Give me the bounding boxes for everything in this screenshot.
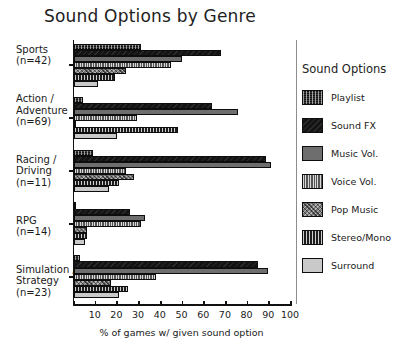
legend-label: Stereo/Mono (331, 232, 391, 243)
bar-group (74, 255, 290, 298)
y-axis-label-line: (n=23) (16, 287, 70, 298)
x-axis-tick-label: 50 (175, 309, 187, 320)
x-axis-title: % of games w/ given sound option (73, 327, 290, 338)
legend-title: Sound Options (302, 62, 406, 76)
x-axis: 102030405060708090100 (73, 304, 290, 306)
x-axis-tick-label: 90 (262, 309, 274, 320)
x-axis-tick-label: 30 (132, 309, 144, 320)
legend-item[interactable]: Sound FX (302, 111, 406, 139)
bar[interactable] (74, 81, 98, 87)
y-axis-label-line: Adventure (16, 105, 70, 116)
legend-item[interactable]: Surround (302, 251, 406, 279)
x-axis-tick-label: 60 (197, 309, 209, 320)
x-axis-tick (290, 301, 292, 306)
bar-row (74, 239, 290, 245)
plot-area (73, 40, 290, 304)
y-axis-label-line: (n=42) (16, 55, 70, 66)
legend-swatch (302, 202, 323, 217)
bar-group (74, 97, 290, 140)
legend-label: Music Vol. (331, 148, 378, 159)
y-axis-label-line: Racing / (16, 154, 70, 165)
legend-swatch (302, 90, 323, 105)
y-axis-label-line: (n=14) (16, 226, 70, 237)
legend-label: Voice Vol. (331, 176, 377, 187)
y-axis-label: Sports(n=42) (0, 44, 70, 67)
x-axis-tick (182, 301, 184, 306)
y-axis-label: Action /Adventure(n=69) (0, 93, 70, 127)
x-axis-tick (160, 301, 162, 306)
y-axis-label-line: Action / (16, 93, 70, 104)
bar-row (74, 292, 290, 298)
legend-swatch (302, 230, 323, 245)
x-axis-tick-label: 80 (241, 309, 253, 320)
y-axis-tick (69, 170, 74, 172)
bar-group (74, 202, 290, 245)
legend-divider (296, 40, 297, 304)
x-axis-tick-label: 10 (89, 309, 101, 320)
x-axis-tick (268, 301, 270, 306)
y-axis-label: RPG(n=14) (0, 215, 70, 238)
y-axis-label-line: (n=69) (16, 116, 70, 127)
bar[interactable] (74, 239, 85, 245)
legend-label: Playlist (331, 92, 365, 103)
legend-item[interactable]: Music Vol. (302, 139, 406, 167)
x-axis-tick-label: 40 (154, 309, 166, 320)
x-axis-tick-label: 70 (219, 309, 231, 320)
y-axis-label-line: RPG (16, 215, 70, 226)
x-axis-tick (95, 301, 97, 306)
x-axis-tick (225, 301, 227, 306)
bar[interactable] (74, 292, 119, 298)
y-axis-label-line: Sports (16, 44, 70, 55)
bar-row (74, 81, 290, 87)
y-axis-label-line: (n=11) (16, 177, 70, 188)
legend-item[interactable]: Playlist (302, 83, 406, 111)
legend-label: Surround (331, 260, 374, 271)
y-axis-tick (69, 117, 74, 119)
x-axis-tick (73, 301, 75, 306)
x-axis-tick (116, 301, 118, 306)
y-axis-label-line: Strategy (16, 275, 70, 286)
legend-swatch (302, 258, 323, 273)
y-axis-tick (69, 276, 74, 278)
x-axis-tick (203, 301, 205, 306)
y-axis-label: Racing /Driving(n=11) (0, 154, 70, 188)
legend-item[interactable]: Pop Music (302, 195, 406, 223)
x-axis-tick-label: 100 (281, 309, 299, 320)
bar-groups (74, 40, 290, 304)
y-axis-label: Simulation /Strategy(n=23) (0, 264, 70, 298)
y-axis-label-line: Driving (16, 165, 70, 176)
legend-item[interactable]: Voice Vol. (302, 167, 406, 195)
legend: Sound Options PlaylistSound FXMusic Vol.… (302, 62, 406, 279)
legend-label: Pop Music (331, 204, 378, 215)
legend-swatch (302, 146, 323, 161)
x-axis-tick (247, 301, 249, 306)
bar-group (74, 150, 290, 193)
y-axis-category-labels: Sports(n=42)Action /Adventure(n=69)Racin… (0, 40, 70, 304)
y-axis-tick (69, 223, 74, 225)
bar[interactable] (74, 133, 117, 139)
bar-row (74, 186, 290, 192)
x-axis-tick (138, 301, 140, 306)
y-axis-label-line: Simulation / (16, 264, 70, 275)
chart-title: Sound Options by Genre (0, 6, 300, 26)
y-axis-tick (69, 64, 74, 66)
legend-swatch (302, 174, 323, 189)
legend-label: Sound FX (331, 120, 376, 131)
legend-item[interactable]: Stereo/Mono (302, 223, 406, 251)
legend-items: PlaylistSound FXMusic Vol.Voice Vol.Pop … (302, 83, 406, 279)
bar-group (74, 44, 290, 87)
legend-swatch (302, 118, 323, 133)
bar-row (74, 133, 290, 139)
bar[interactable] (74, 186, 109, 192)
x-axis-tick-label: 20 (110, 309, 122, 320)
